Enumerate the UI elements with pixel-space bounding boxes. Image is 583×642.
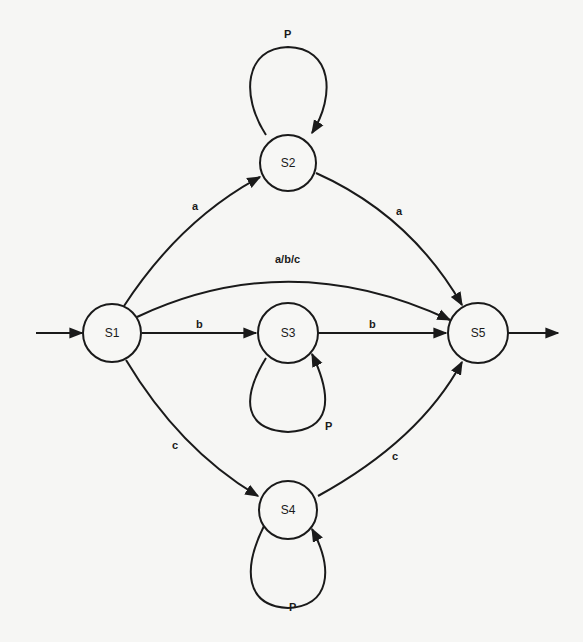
state-s4: S4 xyxy=(259,481,317,539)
loop-label-s2: P xyxy=(284,28,291,40)
state-s1: S1 xyxy=(83,304,141,362)
edge-label-s1-s3: b xyxy=(196,318,203,330)
state-diagram: a a a/b/c b b c c P P P S1 S2 S3 S4 S5 xyxy=(0,0,583,642)
state-s5: S5 xyxy=(448,303,508,363)
state-label-s2: S2 xyxy=(281,156,296,170)
edge-label-s1-s2: a xyxy=(192,200,199,212)
state-s2: S2 xyxy=(260,135,316,191)
state-label-s5: S5 xyxy=(471,326,486,340)
state-s3: S3 xyxy=(258,303,318,363)
edge-label-s1-s4: c xyxy=(172,439,178,451)
edge-label-s1-s5: a/b/c xyxy=(275,253,300,265)
state-label-s3: S3 xyxy=(281,326,296,340)
state-label-s1: S1 xyxy=(105,326,120,340)
loop-label-s3: P xyxy=(325,420,332,432)
edge-label-s4-s5: c xyxy=(392,450,398,462)
edge-label-s3-s5: b xyxy=(369,318,376,330)
state-label-s4: S4 xyxy=(281,503,296,517)
edge-label-s2-s5: a xyxy=(396,205,403,217)
loop-label-s4: P xyxy=(289,601,296,613)
